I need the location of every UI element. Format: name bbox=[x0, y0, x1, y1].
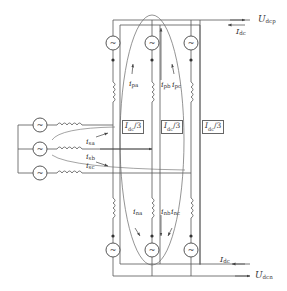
label-u-dcp: Udcp bbox=[258, 15, 276, 25]
label-u-dcn: Udcn bbox=[255, 271, 273, 281]
label-i-pc: ipc bbox=[172, 81, 181, 90]
svg-text:~: ~ bbox=[110, 246, 117, 255]
label-i-nc: inc bbox=[171, 208, 180, 217]
svg-text:~: ~ bbox=[149, 246, 156, 255]
mmc-circuit-diagram: ~~~ ~~~ ~~~ Udcp Idc Udcn Idc ipa ipb ip… bbox=[0, 0, 287, 291]
label-i-nb: inb bbox=[161, 208, 171, 217]
svg-text:~: ~ bbox=[188, 246, 195, 255]
svg-text:~: ~ bbox=[149, 39, 156, 48]
box-idc-third-c: Idc/3 bbox=[202, 120, 224, 134]
label-i-pb: ipb bbox=[161, 81, 171, 90]
label-i-dc-bottom: Idc bbox=[220, 256, 230, 265]
label-i-dc-top: Idc bbox=[236, 28, 246, 37]
label-i-pa: ipa bbox=[129, 80, 138, 89]
label-i-sc: isc bbox=[86, 162, 94, 171]
label-i-sa: isa bbox=[86, 138, 95, 147]
svg-text:~: ~ bbox=[37, 169, 44, 178]
label-i-na: ina bbox=[133, 208, 142, 217]
box-idc-third-b: Idc/3 bbox=[161, 120, 183, 134]
svg-text:~: ~ bbox=[37, 121, 44, 130]
box-idc-third-a: Idc/3 bbox=[122, 120, 144, 134]
circuit-schematic: ~~~ ~~~ ~~~ bbox=[0, 0, 287, 291]
svg-text:~: ~ bbox=[188, 39, 195, 48]
svg-text:~: ~ bbox=[37, 145, 44, 154]
svg-text:~: ~ bbox=[110, 39, 117, 48]
